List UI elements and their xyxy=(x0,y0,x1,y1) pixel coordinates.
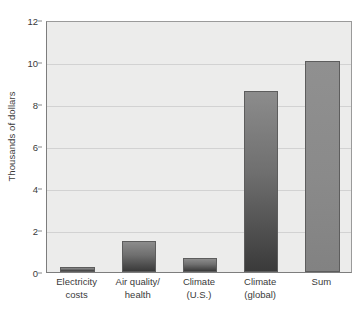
x-tick-label: Climate(U.S.) xyxy=(168,276,229,301)
x-tick-label-line1: Climate xyxy=(244,276,276,287)
x-tick-label-line1: Electricity xyxy=(56,276,97,287)
x-tick-label-line2: (global) xyxy=(230,289,291,302)
plot-area xyxy=(46,21,352,273)
y-tick-label: 12 xyxy=(27,16,38,27)
x-tick-label-line1: Air quality/ xyxy=(116,276,160,287)
x-tick-label: Electricitycosts xyxy=(46,276,107,301)
bar-chart-figure: Thousands of dollars 024681012 Electrici… xyxy=(0,0,364,317)
x-tick-label-line1: Climate xyxy=(183,276,215,287)
y-tick-mark xyxy=(38,231,42,232)
bar[interactable] xyxy=(244,91,278,272)
x-axis-tick-labels: ElectricitycostsAir quality/healthClimat… xyxy=(46,276,352,316)
y-axis-tick-labels: 024681012 xyxy=(18,0,42,290)
x-tick-label-line1: Sum xyxy=(312,276,332,287)
x-tick-label-line2: health xyxy=(107,289,168,302)
y-tick-label: 10 xyxy=(27,58,38,69)
y-tick-mark xyxy=(38,63,42,64)
bar[interactable] xyxy=(183,258,217,272)
x-tick-label-line2: (U.S.) xyxy=(168,289,229,302)
y-tick-mark xyxy=(38,147,42,148)
bars-group xyxy=(47,22,351,272)
x-tick-label-line2: costs xyxy=(46,289,107,302)
x-tick-label: Air quality/health xyxy=(107,276,168,301)
bar[interactable] xyxy=(122,241,156,273)
y-tick-mark xyxy=(38,105,42,106)
bar[interactable] xyxy=(305,61,339,272)
y-axis-title-text: Thousands of dollars xyxy=(6,91,17,181)
x-tick-label: Sum xyxy=(291,276,352,289)
y-tick-mark xyxy=(38,189,42,190)
y-tick-mark xyxy=(38,21,42,22)
bar[interactable] xyxy=(60,267,94,272)
y-tick-mark xyxy=(38,273,42,274)
x-tick-label: Climate(global) xyxy=(230,276,291,301)
